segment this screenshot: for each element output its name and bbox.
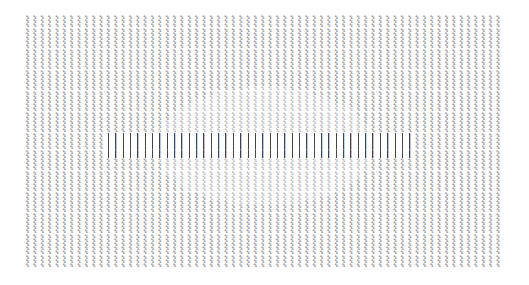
- ascii-column: %%%%%%%%%%%%%%%%%%%%%%%%%%%%%%%%%%%%%%%%…: [69, 15, 74, 270]
- ascii-column: %%%%%%%%%%%%%%%%%%%%%%%%%%%%%%%%%%%%%%%%…: [481, 15, 486, 270]
- ascii-column: %%%%%%%%%%%%%%%%%%%%%%%%%%%%||||||%%%%%%…: [143, 15, 148, 270]
- ascii-column: %%%%%%%%%%%%%%%%%%%%%%%%%%%%%%%%%%%%%%%%…: [466, 15, 471, 270]
- ascii-column: %%%%%%%%%%%%%%%%%%%%%%%%%%%%||||||%%%%%%…: [179, 15, 184, 270]
- ascii-column: %%%%%%%%%%%%%%%%%%%%%%%%%%%%%%%%%%%%%%%%…: [84, 15, 89, 270]
- ascii-art-canvas: %%%%%%%%%%%%%%%%%%%%%%%%%%%%%%%%%%%%%%%%…: [25, 15, 503, 270]
- ascii-column: %%%%%%%%%%%%%%%%%%%%%%%%%%%%%%%%%%%%%%%%…: [415, 15, 420, 270]
- ascii-column: %%%%%%%%%%%%%%%%%%%%%%%%%%%%||||||%%%%%%…: [378, 15, 383, 270]
- ascii-column: %%%%%%%%%%%%%%%%%%%%%%%%%%%%||||||%%%%%%…: [297, 15, 302, 270]
- ascii-column: %%%%%%%%%%%%%%%%%%%%%%%%%%%%||||||%%%%%%…: [246, 15, 251, 270]
- ascii-column: %%%%%%%%%%%%%%%%%%%%%%%%%%%%||||||%%%%%%…: [231, 15, 236, 270]
- ascii-column: %%%%%%%%%%%%%%%%%%%%%%%%%%%%||||||%%%%%%…: [209, 15, 214, 270]
- ascii-column: %%%%%%%%%%%%%%%%%%%%%%%%%%%%%%%%%%%%%%%%…: [32, 15, 37, 270]
- ascii-column: %%%%%%%%%%%%%%%%%%%%%%%%%%%%||||||%%%%%%…: [370, 15, 375, 270]
- ascii-column: %%%%%%%%%%%%%%%%%%%%%%%%%%%%||||||%%%%%%…: [268, 15, 273, 270]
- ascii-column: %%%%%%%%%%%%%%%%%%%%%%%%%%%%%%%%%%%%%%%%…: [54, 15, 59, 270]
- ascii-column: %%%%%%%%%%%%%%%%%%%%%%%%%%%%%%%%%%%%%%%%…: [62, 15, 67, 270]
- ascii-column: %%%%%%%%%%%%%%%%%%%%%%%%%%%%||||||%%%%%%…: [157, 15, 162, 270]
- ascii-column: %%%%%%%%%%%%%%%%%%%%%%%%%%%%||||||%%%%%%…: [253, 15, 258, 270]
- ascii-column: %%%%%%%%%%%%%%%%%%%%%%%%%%%%||||||%%%%%%…: [341, 15, 346, 270]
- ascii-column: %%%%%%%%%%%%%%%%%%%%%%%%%%%%||||||%%%%%%…: [348, 15, 353, 270]
- ascii-column: %%%%%%%%%%%%%%%%%%%%%%%%%%%%%%%%%%%%%%%%…: [473, 15, 478, 270]
- ascii-column: %%%%%%%%%%%%%%%%%%%%%%%%%%%%%%%%%%%%%%%%…: [437, 15, 442, 270]
- ascii-column: %%%%%%%%%%%%%%%%%%%%%%%%%%%%||||||%%%%%%…: [304, 15, 309, 270]
- ascii-column: %%%%%%%%%%%%%%%%%%%%%%%%%%%%||||||%%%%%%…: [393, 15, 398, 270]
- ascii-column: %%%%%%%%%%%%%%%%%%%%%%%%%%%%||||||%%%%%%…: [238, 15, 243, 270]
- ascii-column: %%%%%%%%%%%%%%%%%%%%%%%%%%%%||||||%%%%%%…: [121, 15, 126, 270]
- ascii-column: %%%%%%%%%%%%%%%%%%%%%%%%%%%%%%%%%%%%%%%%…: [76, 15, 81, 270]
- ascii-column: %%%%%%%%%%%%%%%%%%%%%%%%%%%%%%%%%%%%%%%%…: [91, 15, 96, 270]
- ascii-column: %%%%%%%%%%%%%%%%%%%%%%%%%%%%||||||%%%%%%…: [187, 15, 192, 270]
- ascii-column: %%%%%%%%%%%%%%%%%%%%%%%%%%%%||||||%%%%%%…: [334, 15, 339, 270]
- ascii-column: %%%%%%%%%%%%%%%%%%%%%%%%%%%%||||||%%%%%%…: [216, 15, 221, 270]
- ascii-column: %%%%%%%%%%%%%%%%%%%%%%%%%%%%||||||%%%%%%…: [282, 15, 287, 270]
- ascii-column: %%%%%%%%%%%%%%%%%%%%%%%%%%%%||||||%%%%%%…: [363, 15, 368, 270]
- ascii-column: %%%%%%%%%%%%%%%%%%%%%%%%%%%%||||||%%%%%%…: [194, 15, 199, 270]
- ascii-column: %%%%%%%%%%%%%%%%%%%%%%%%%%%%||||||%%%%%%…: [150, 15, 155, 270]
- ascii-column: %%%%%%%%%%%%%%%%%%%%%%%%%%%%%%%%%%%%%%%%…: [451, 15, 456, 270]
- ascii-column: %%%%%%%%%%%%%%%%%%%%%%%%%%%%||||||%%%%%%…: [128, 15, 133, 270]
- ascii-column: %%%%%%%%%%%%%%%%%%%%%%%%%%%%%%%%%%%%%%%%…: [25, 15, 30, 270]
- ascii-column: %%%%%%%%%%%%%%%%%%%%%%%%%%%%%%%%%%%%%%%%…: [429, 15, 434, 270]
- ascii-column: %%%%%%%%%%%%%%%%%%%%%%%%%%%%%%%%%%%%%%%%…: [422, 15, 427, 270]
- ascii-column: %%%%%%%%%%%%%%%%%%%%%%%%%%%%||||||%%%%%%…: [312, 15, 317, 270]
- ascii-column: %%%%%%%%%%%%%%%%%%%%%%%%%%%%%%%%%%%%%%%%…: [444, 15, 449, 270]
- ascii-column: %%%%%%%%%%%%%%%%%%%%%%%%%%%%%%%%%%%%%%%%…: [459, 15, 464, 270]
- ascii-column: %%%%%%%%%%%%%%%%%%%%%%%%%%%%||||||%%%%%%…: [326, 15, 331, 270]
- ascii-column: %%%%%%%%%%%%%%%%%%%%%%%%%%%%||||||%%%%%%…: [135, 15, 140, 270]
- ascii-column: %%%%%%%%%%%%%%%%%%%%%%%%%%%%%%%%%%%%%%%%…: [40, 15, 45, 270]
- ascii-column: %%%%%%%%%%%%%%%%%%%%%%%%%%%%||||||%%%%%%…: [201, 15, 206, 270]
- ascii-column: %%%%%%%%%%%%%%%%%%%%%%%%%%%%||||||%%%%%%…: [172, 15, 177, 270]
- ascii-column: %%%%%%%%%%%%%%%%%%%%%%%%%%%%||||||%%%%%%…: [260, 15, 265, 270]
- ascii-column: %%%%%%%%%%%%%%%%%%%%%%%%%%%%%%%%%%%%%%%%…: [99, 15, 104, 270]
- ascii-column: %%%%%%%%%%%%%%%%%%%%%%%%%%%%||||||%%%%%%…: [275, 15, 280, 270]
- ascii-column: %%%%%%%%%%%%%%%%%%%%%%%%%%%%||||||%%%%%%…: [407, 15, 412, 270]
- ascii-column: %%%%%%%%%%%%%%%%%%%%%%%%%%%%||||||%%%%%%…: [290, 15, 295, 270]
- ascii-column: %%%%%%%%%%%%%%%%%%%%%%%%%%%%||||||%%%%%%…: [113, 15, 118, 270]
- ascii-column: %%%%%%%%%%%%%%%%%%%%%%%%%%%%||||||%%%%%%…: [165, 15, 170, 270]
- ascii-column: %%%%%%%%%%%%%%%%%%%%%%%%%%%%||||||%%%%%%…: [356, 15, 361, 270]
- ascii-column: %%%%%%%%%%%%%%%%%%%%%%%%%%%%||||||%%%%%%…: [106, 15, 111, 270]
- ascii-column: %%%%%%%%%%%%%%%%%%%%%%%%%%%%%%%%%%%%%%%%…: [488, 15, 493, 270]
- ascii-column: %%%%%%%%%%%%%%%%%%%%%%%%%%%%||||||%%%%%%…: [223, 15, 228, 270]
- ascii-column: %%%%%%%%%%%%%%%%%%%%%%%%%%%%%%%%%%%%%%%%…: [47, 15, 52, 270]
- ascii-column: %%%%%%%%%%%%%%%%%%%%%%%%%%%%%%%%%%%%%%%%…: [495, 15, 500, 270]
- ascii-column: %%%%%%%%%%%%%%%%%%%%%%%%%%%%||||||%%%%%%…: [385, 15, 390, 270]
- ascii-column: %%%%%%%%%%%%%%%%%%%%%%%%%%%%||||||%%%%%%…: [400, 15, 405, 270]
- ascii-column: %%%%%%%%%%%%%%%%%%%%%%%%%%%%||||||%%%%%%…: [319, 15, 324, 270]
